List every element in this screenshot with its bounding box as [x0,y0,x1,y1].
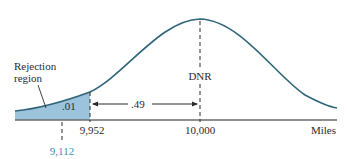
sample-value-label: 9,112 [50,145,74,157]
normal-curve-svg: Rejection region .01 .49 DNR 9,952 10,00… [0,0,347,159]
normal-curve [15,19,337,111]
region-label-leader [38,85,46,108]
center-label: DNR [188,70,212,82]
arrowhead-left [92,102,98,107]
region-label-line2: region [14,72,43,84]
arrowhead-right [192,102,198,107]
axis-label: Miles [311,124,336,136]
tail-probability-label: .01 [62,100,76,112]
normal-curve-figure: Rejection region .01 .49 DNR 9,952 10,00… [0,0,347,159]
region-label-line1: Rejection [14,60,57,72]
middle-probability-label: .49 [131,98,145,110]
critical-value-label: 9,952 [80,124,105,136]
center-value-label: 10,000 [185,124,216,136]
